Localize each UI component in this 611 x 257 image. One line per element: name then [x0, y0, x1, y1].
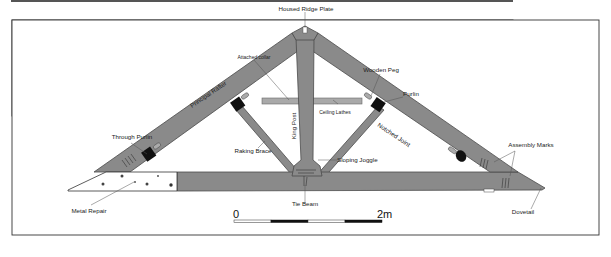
label-ceiling-lathes: Ceiling Lathes — [319, 109, 351, 115]
tie-beam — [177, 172, 545, 191]
label-king-post: King Post — [290, 112, 297, 139]
label-attached-collar: Attached collar — [237, 54, 270, 60]
label-metal-repair: Metal Repair — [71, 207, 106, 214]
label-dovetail: Dovetail — [512, 208, 534, 215]
ridge-plate-slot — [303, 27, 307, 33]
label-assembly-marks: Assembly Marks — [508, 141, 553, 148]
dovetail-notch — [484, 189, 494, 192]
label-raking-brace: Raking Brace — [234, 147, 272, 154]
label-wooden-peg: Wooden Peg — [363, 66, 399, 73]
bolt — [134, 181, 136, 183]
label-sloping-joggle: Sloping Joggle — [337, 156, 378, 163]
bolt — [121, 175, 124, 178]
scale-segment-white-1 — [234, 220, 271, 223]
bolt — [102, 183, 105, 186]
scale-end-label: 2m — [377, 208, 392, 220]
roof-truss-diagram: Housed Ridge Plate Attached collar Princ… — [0, 0, 611, 257]
label-through-purlin: Through Purlin — [112, 133, 153, 140]
scale-segment-black-2 — [345, 220, 382, 223]
label-purlin: Purlin — [403, 90, 419, 97]
bolt — [146, 183, 149, 186]
label-tie-beam: Tie Beam — [292, 200, 318, 207]
bolt — [169, 183, 172, 186]
label-housed-ridge-plate: Housed Ridge Plate — [278, 5, 334, 12]
scale-segment-white-2 — [308, 220, 345, 223]
scale-start-label: 0 — [233, 208, 239, 220]
bolt — [157, 175, 159, 177]
scale-segment-black-1 — [271, 220, 308, 223]
